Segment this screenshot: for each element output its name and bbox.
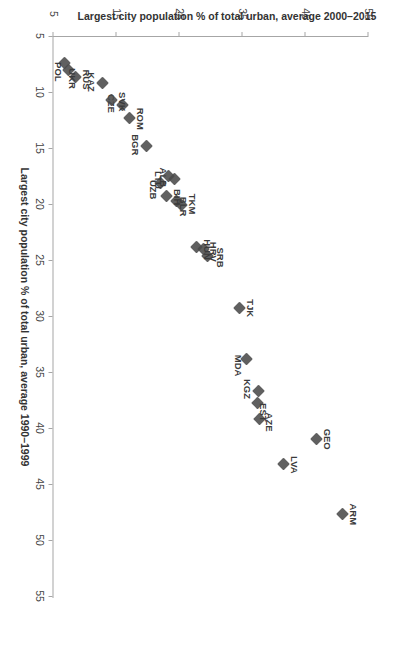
x-tick-label: 25 — [33, 254, 45, 266]
x-tick-label: 35 — [33, 366, 45, 378]
data-point-label: BIH — [171, 189, 182, 205]
data-point-label: MDA — [233, 355, 244, 377]
data-point-label: POL — [53, 62, 64, 82]
x-tick-label: 45 — [33, 478, 45, 490]
x-axis-title: Largest city population % of total urban… — [17, 36, 30, 598]
data-point-label: TJK — [245, 299, 256, 317]
data-point-label: RUS — [81, 69, 92, 89]
data-point-label: LTU — [152, 171, 163, 189]
x-tick-mark — [48, 596, 52, 597]
data-point-label: ROM — [134, 108, 145, 130]
x-tick-label: 30 — [33, 310, 45, 322]
data-point-label: GEO — [322, 429, 333, 450]
data-point-label: LVA — [288, 456, 299, 474]
x-tick-label: 5 — [33, 33, 45, 39]
x-tick-label: 40 — [33, 422, 45, 434]
x-tick-mark — [48, 204, 52, 205]
x-tick-mark — [48, 540, 52, 541]
data-point-label: ARM — [348, 503, 359, 525]
chart-canvas: 510152025303540455055 51525354555 Larges… — [0, 0, 393, 662]
x-tick-label: 55 — [33, 590, 45, 602]
data-point-label: BGR — [130, 134, 141, 155]
x-tick-mark — [48, 260, 52, 261]
x-tick-mark — [48, 372, 52, 373]
data-point-label: EST — [258, 403, 269, 421]
x-tick-label: 20 — [33, 198, 45, 210]
y-axis-title: Largest city population % of total urban… — [68, 10, 384, 23]
plot-area — [53, 36, 368, 596]
x-tick-label: 50 — [33, 534, 45, 546]
scatter-chart-figure: 510152025303540455055 51525354555 Larges… — [0, 0, 393, 662]
data-point-label: HUN — [202, 239, 213, 260]
data-point-label: SVK — [116, 92, 127, 112]
y-tick-label: 5 — [47, 11, 59, 17]
data-point-label: KGZ — [241, 379, 252, 399]
x-tick-mark — [48, 36, 52, 37]
x-tick-mark — [48, 316, 52, 317]
x-tick-mark — [48, 484, 52, 485]
x-tick-label: 10 — [33, 86, 45, 98]
x-tick-mark — [48, 428, 52, 429]
x-tick-mark — [48, 148, 52, 149]
x-tick-label: 15 — [33, 142, 45, 154]
x-tick-mark — [48, 92, 52, 93]
data-point-label: UKR — [67, 68, 78, 89]
